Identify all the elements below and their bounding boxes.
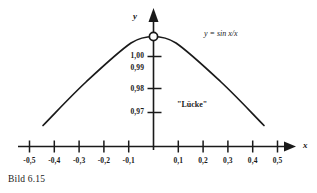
y-tick-label-2: 0,99	[120, 64, 144, 72]
x-tick-label-7: 0,2	[192, 157, 214, 165]
x-tick-label-9: 0,4	[242, 157, 264, 165]
y-tick-label-1: 1,00	[120, 52, 144, 60]
gap-annotation-label: "Lücke"	[177, 101, 207, 109]
x-axis-label: x	[303, 141, 308, 150]
x-tick-label-1: -0,5	[18, 157, 42, 165]
y-axis-arrow-icon	[149, 8, 159, 22]
x-tick-label-6: 0,1	[167, 157, 189, 165]
removable-discontinuity-open-circle	[149, 32, 157, 40]
x-tick-label-8: 0,3	[217, 157, 239, 165]
x-tick-label-10: 0,5	[267, 157, 289, 165]
x-tick-label-5: -0,1	[117, 157, 141, 165]
y-tick-label-4: 0,97	[120, 108, 144, 116]
x-tick-label-2: -0,4	[42, 157, 66, 165]
y-tick-label-3: 0,98	[120, 85, 144, 93]
x-tick-label-3: -0,3	[67, 157, 91, 165]
figure-container: y x y = sin x/x "Lücke" 1,00 0,99 0,98 0…	[0, 0, 317, 193]
figure-caption: Bild 6.15	[8, 174, 45, 184]
y-axis-ticks	[148, 57, 162, 113]
x-axis-arrow-icon	[284, 142, 296, 152]
y-axis-label: y	[133, 12, 137, 21]
x-tick-label-4: -0,2	[92, 157, 116, 165]
curve-equation-label: y = sin x/x	[204, 30, 238, 38]
